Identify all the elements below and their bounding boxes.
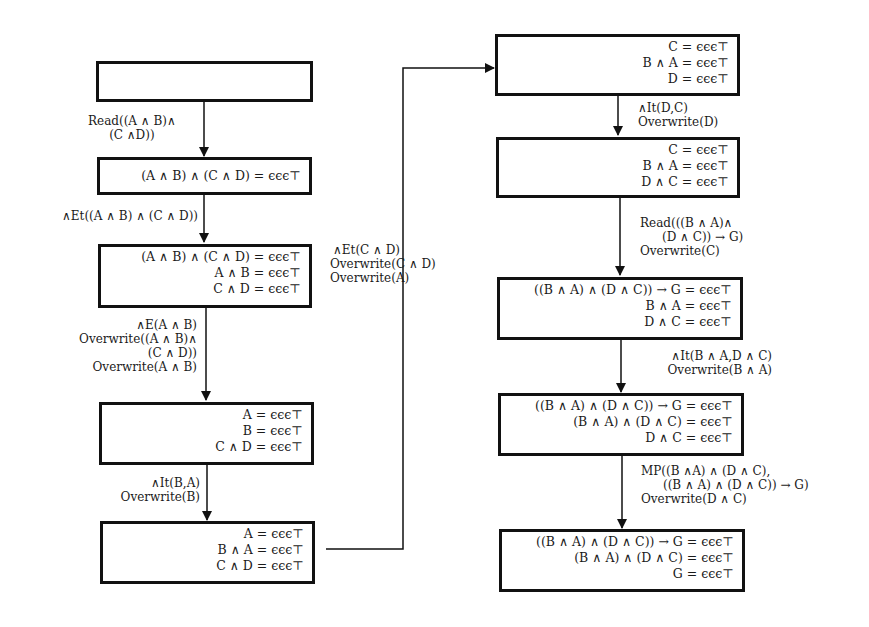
state-line: D ∧ C = ϵϵϵ⊤: [508, 314, 732, 330]
state-box-L2: (A ∧ B) ∧ (C ∧ D) = ϵϵϵ⊤: [97, 157, 312, 195]
state-line: (B ∧ A) ∧ (D ∧ C) = ϵϵϵ⊤: [509, 414, 733, 430]
edge-label-R4-R5: MP((B ∧A) ∧ (D ∧ C), ((B ∧ A) ∧ (D ∧ C))…: [641, 464, 809, 506]
edge-label-R2-R3: Read(((B ∧ A)∧ (D ∧ C)) → G) Overwrite(C…: [640, 216, 743, 258]
state-line: ((B ∧ A) ∧ (D ∧ C)) → G = ϵϵϵ⊤: [509, 398, 733, 414]
state-box-L3: (A ∧ B) ∧ (C ∧ D) = ϵϵϵ⊤ A ∧ B = ϵϵϵ⊤ C …: [98, 244, 312, 308]
state-line: G = ϵϵϵ⊤: [510, 566, 734, 582]
edge-label-L5-R1: ∧Et(C ∧ D) Overwrite(C ∧ D) Overwrite(A): [330, 243, 400, 285]
state-line: C ∧ D = ϵϵϵ⊤: [109, 281, 301, 297]
state-box-R2: C = ϵϵϵ⊤ B ∧ A = ϵϵϵ⊤ D ∧ C = ϵϵϵ⊤: [496, 137, 740, 198]
state-line: D = ϵϵϵ⊤: [506, 71, 729, 87]
state-line: ((B ∧ A) ∧ (D ∧ C)) → G = ϵϵϵ⊤: [510, 534, 734, 550]
state-line: D ∧ C = ϵϵϵ⊤: [509, 430, 733, 446]
state-line: B ∧ A = ϵϵϵ⊤: [111, 542, 304, 558]
state-line: C = ϵϵϵ⊤: [506, 39, 729, 55]
state-line: ((B ∧ A) ∧ (D ∧ C)) → G = ϵϵϵ⊤: [508, 282, 732, 298]
arrow-L5-R1: [326, 68, 494, 549]
edge-label-L3-L4: ∧E(A ∧ B) Overwrite((A ∧ B)∧ (C ∧ D)) Ov…: [60, 318, 197, 374]
state-box-R3: ((B ∧ A) ∧ (D ∧ C)) → G = ϵϵϵ⊤ B ∧ A = ϵ…: [497, 277, 743, 340]
state-box-L1: [96, 61, 313, 102]
state-line: A = ϵϵϵ⊤: [110, 407, 303, 423]
state-line: D ∧ C = ϵϵϵ⊤: [507, 174, 729, 190]
state-box-L4: A = ϵϵϵ⊤ B = ϵϵϵ⊤ C ∧ D = ϵϵϵ⊤: [99, 402, 314, 465]
state-line: (A ∧ B) ∧ (C ∧ D) = ϵϵϵ⊤: [108, 168, 301, 184]
state-box-R1: C = ϵϵϵ⊤ B ∧ A = ϵϵϵ⊤ D = ϵϵϵ⊤: [495, 34, 740, 96]
edge-label-R3-R4: ∧It(B ∧ A,D ∧ C) Overwrite(B ∧ A): [630, 349, 772, 377]
state-line: C ∧ D = ϵϵϵ⊤: [110, 439, 303, 455]
state-line: B ∧ A = ϵϵϵ⊤: [507, 158, 729, 174]
edge-label-R1-R2: ∧It(D,C) Overwrite(D): [638, 101, 718, 129]
edge-label-L4-L5: ∧It(B,A) Overwrite(B): [90, 476, 200, 504]
state-line: (A ∧ B) ∧ (C ∧ D) = ϵϵϵ⊤: [109, 249, 301, 265]
edge-label-L2-L3: ∧Et((A ∧ B) ∧ (C ∧ D)): [40, 209, 198, 223]
state-line: (B ∧ A) ∧ (D ∧ C) = ϵϵϵ⊤: [510, 550, 734, 566]
state-line: C ∧ D = ϵϵϵ⊤: [111, 558, 304, 574]
state-line: B ∧ A = ϵϵϵ⊤: [508, 298, 732, 314]
state-line: A ∧ B = ϵϵϵ⊤: [109, 265, 301, 281]
state-box-L5: A = ϵϵϵ⊤ B ∧ A = ϵϵϵ⊤ C ∧ D = ϵϵϵ⊤: [100, 521, 315, 584]
state-line: A = ϵϵϵ⊤: [111, 526, 304, 542]
edge-label-L1-L2: Read((A ∧ B)∧ (C ∧D)): [88, 114, 176, 142]
state-line: C = ϵϵϵ⊤: [507, 142, 729, 158]
state-line: B = ϵϵϵ⊤: [110, 423, 303, 439]
state-box-R4: ((B ∧ A) ∧ (D ∧ C)) → G = ϵϵϵ⊤ (B ∧ A) ∧…: [498, 393, 744, 456]
state-box-R5: ((B ∧ A) ∧ (D ∧ C)) → G = ϵϵϵ⊤ (B ∧ A) ∧…: [499, 529, 745, 592]
state-line: B ∧ A = ϵϵϵ⊤: [506, 55, 729, 71]
